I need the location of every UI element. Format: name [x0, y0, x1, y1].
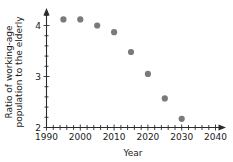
y-tick-label-4: 4 — [35, 21, 41, 31]
x-tick-label-2030: 2030 — [170, 132, 193, 142]
x-axis-arrowhead — [219, 124, 227, 130]
x-tick-label-2010: 2010 — [103, 132, 126, 142]
scatter-plot: 2 3 4 1990 2000 2010 2020 2030 2040 Year… — [0, 0, 233, 162]
x-tick-label-2040: 2040 — [204, 132, 227, 142]
x-tick-label-2020: 2020 — [136, 132, 159, 142]
x-tick-labels: 1990 2000 2010 2020 2030 2040 — [35, 132, 227, 142]
data-point — [128, 49, 134, 55]
data-point — [111, 29, 117, 35]
data-point — [77, 16, 83, 22]
y-axis-title: Ratio of working-age population to the e… — [4, 16, 24, 128]
data-point — [60, 16, 66, 22]
data-point — [145, 71, 151, 77]
y-tick-labels: 2 3 4 — [35, 21, 41, 133]
x-axis-title: Year — [122, 148, 142, 158]
y-axis-arrowhead — [43, 8, 49, 16]
x-tick-label-2000: 2000 — [69, 132, 92, 142]
data-point — [179, 116, 185, 122]
data-point — [94, 22, 100, 28]
y-tick-label-3: 3 — [35, 72, 41, 82]
y-axis-title-line2: population to the elderly — [14, 16, 24, 128]
y-axis-title-line1: Ratio of working-age — [4, 25, 14, 119]
x-tick-label-1990: 1990 — [35, 132, 58, 142]
chart-container: 2 3 4 1990 2000 2010 2020 2030 2040 Year… — [0, 0, 233, 162]
data-points — [60, 16, 184, 122]
data-point — [162, 95, 168, 101]
